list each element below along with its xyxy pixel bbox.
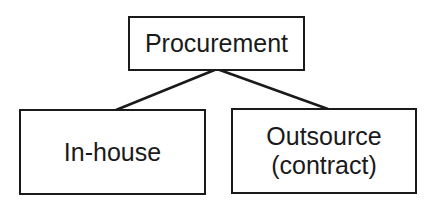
connector-root-to-in-house bbox=[116, 69, 217, 110]
connector-root-to-outsource bbox=[217, 69, 328, 109]
node-procurement: Procurement bbox=[128, 16, 305, 71]
node-label: Procurement bbox=[145, 29, 288, 58]
node-label-line1: Outsource bbox=[266, 122, 381, 151]
node-outsource: Outsource (contract) bbox=[231, 108, 417, 194]
node-label-line2: (contract) bbox=[271, 151, 377, 180]
node-label: In-house bbox=[64, 138, 161, 167]
node-in-house: In-house bbox=[19, 109, 206, 195]
